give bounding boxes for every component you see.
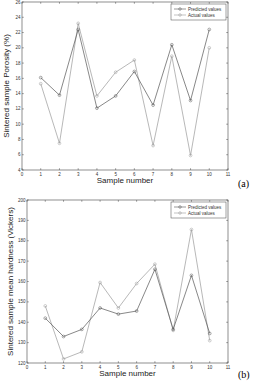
y-tick-label: 140 — [18, 320, 26, 325]
x-tick-label: 11 — [226, 365, 231, 370]
series-line-predicted-values — [45, 269, 209, 336]
y-tick-label: 8 — [18, 137, 21, 142]
y-tick-label: 24 — [15, 15, 21, 20]
y-tick-label: 120 — [18, 361, 26, 366]
x-tick-label: 9 — [189, 172, 192, 177]
x-tick-label: 2 — [62, 365, 65, 370]
y-tick-label: 6 — [18, 152, 21, 157]
x-axis-label: Sample number — [99, 369, 156, 378]
y-tick-label: 20 — [15, 45, 21, 50]
plot-frame — [27, 200, 228, 363]
panel-label: (b) — [238, 369, 250, 381]
chart-panel-a: 01234567891011468101214161820222426Sampl… — [2, 0, 249, 190]
y-axis-label: Sintered sample mean hardness (Vickers) — [6, 207, 15, 356]
x-tick-label: 8 — [172, 365, 175, 370]
y-tick-label: 130 — [18, 340, 26, 345]
legend-entry: Actual values — [188, 13, 216, 18]
y-tick-label: 190 — [18, 218, 26, 223]
x-tick-label: 9 — [190, 365, 193, 370]
y-tick-label: 180 — [18, 238, 26, 243]
x-tick-label: 1 — [39, 172, 42, 177]
x-tick-label: 10 — [207, 172, 213, 177]
y-tick-label: 26 — [15, 0, 21, 5]
y-tick-label: 150 — [18, 299, 26, 304]
y-tick-label: 22 — [15, 30, 21, 35]
x-tick-label: 1 — [44, 365, 47, 370]
x-tick-label: 0 — [21, 172, 24, 177]
y-tick-label: 200 — [18, 198, 26, 203]
y-tick-label: 160 — [18, 279, 26, 284]
y-tick-label: 12 — [15, 106, 21, 111]
y-tick-label: 170 — [18, 259, 26, 264]
x-axis-label: Sample number — [97, 176, 154, 185]
x-tick-label: 3 — [81, 365, 84, 370]
chart-panel-b: 0123456789101112013014015016017018019020… — [6, 198, 250, 381]
figure: 01234567891011468101214161820222426Sampl… — [0, 0, 256, 381]
legend: Predicted valuesActual values — [171, 4, 226, 20]
x-tick-label: 3 — [77, 172, 80, 177]
legend-entry: Predicted values — [188, 7, 222, 12]
y-axis-label: Sintered sample Porosity (%) — [2, 34, 11, 138]
panel-label: (a) — [238, 178, 249, 190]
y-tick-label: 18 — [15, 61, 21, 66]
x-tick-label: 8 — [171, 172, 174, 177]
series-line-predicted-values — [41, 29, 210, 108]
plot-frame — [22, 2, 228, 170]
legend: Predicted valuesActual values — [171, 202, 226, 218]
y-tick-label: 16 — [15, 76, 21, 81]
x-tick-label: 0 — [26, 365, 29, 370]
x-tick-label: 2 — [58, 172, 61, 177]
legend-entry: Predicted values — [188, 205, 222, 210]
legend-entry: Actual values — [188, 211, 216, 216]
x-tick-label: 10 — [207, 365, 213, 370]
x-tick-label: 11 — [226, 172, 231, 177]
y-tick-label: 10 — [15, 122, 21, 127]
series-line-actual-values — [41, 23, 210, 155]
y-tick-label: 14 — [15, 91, 21, 96]
